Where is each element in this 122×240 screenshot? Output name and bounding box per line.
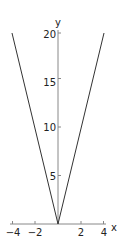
y-tick-label: 5 <box>50 171 56 182</box>
y-tick-label: 15 <box>43 77 56 88</box>
x-tick-label: 2 <box>78 227 84 238</box>
chart: −4 −2 2 4 5 10 15 20 x y <box>0 0 122 240</box>
x-tick-label: −2 <box>28 227 43 238</box>
x-tick-label: 4 <box>101 227 107 238</box>
x-axis-label: x <box>111 222 117 233</box>
y-tick-label: 10 <box>43 122 56 133</box>
y-axis-label: y <box>55 17 61 28</box>
x-tick-label: −4 <box>6 227 21 238</box>
y-tick-label: 20 <box>43 29 56 40</box>
